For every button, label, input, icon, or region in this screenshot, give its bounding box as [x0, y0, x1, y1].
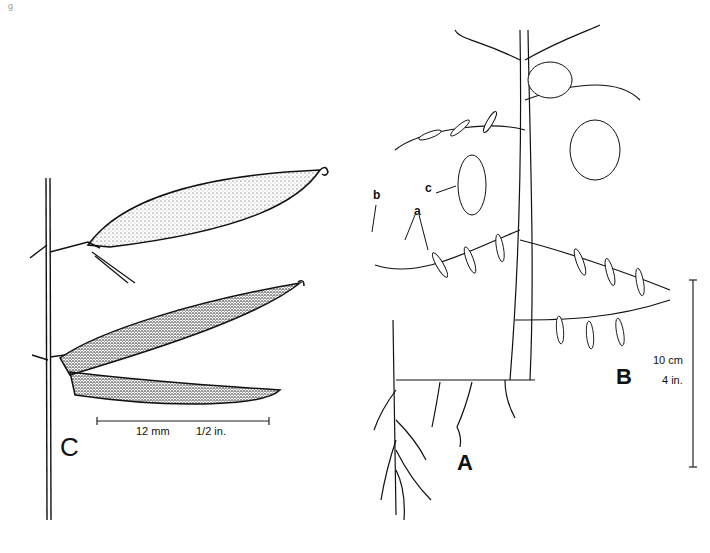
pod-scale-imperial: 1/2 in. [196, 425, 226, 437]
pod-scale-metric: 12 mm [136, 425, 170, 437]
plant-scale-metric: 10 cm [653, 354, 683, 366]
panel-label-b: B [616, 364, 632, 390]
flowering-shoot [375, 25, 670, 380]
panel-label-a: A [457, 450, 473, 476]
plant-scale-imperial: 4 in. [662, 374, 683, 386]
callout-b: b [373, 188, 380, 202]
pod-stem [30, 178, 51, 520]
root-system [374, 320, 535, 520]
callout-arrows [372, 186, 456, 250]
pod-scale-bar [97, 417, 269, 425]
plant-scale-bar [689, 280, 697, 467]
panel-label-c: C [60, 432, 79, 463]
botanical-illustration [0, 0, 710, 553]
corner-mark: g [8, 1, 13, 11]
callout-a: a [414, 204, 421, 218]
pod-lower [50, 281, 304, 404]
pod-upper [50, 167, 328, 283]
callout-c: c [425, 181, 432, 195]
